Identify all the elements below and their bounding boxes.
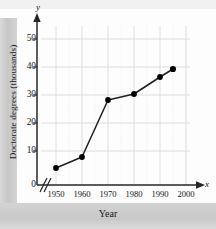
chart-plot-area <box>0 0 216 229</box>
data-line-doctorate-degrees <box>56 69 173 168</box>
data-point <box>157 74 163 80</box>
data-point <box>170 66 176 72</box>
data-point <box>131 91 137 97</box>
data-point <box>53 165 59 171</box>
minor-gridlines-vertical <box>69 26 186 185</box>
major-gridlines-horizontal <box>41 39 190 151</box>
data-point <box>105 97 111 103</box>
data-point-markers <box>53 66 176 171</box>
data-point <box>79 154 85 160</box>
figure-canvas: Doctorate degrees (thousands) Year 50 40… <box>0 0 216 229</box>
